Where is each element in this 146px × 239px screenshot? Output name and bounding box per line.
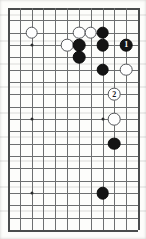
grid-line-vertical — [55, 8, 56, 230]
stone-black[interactable] — [73, 51, 86, 64]
stone-black[interactable] — [73, 39, 86, 52]
stone-white[interactable] — [84, 26, 97, 39]
scan-band — [0, 186, 146, 188]
scan-band — [0, 136, 146, 138]
grid-line-horizontal — [8, 131, 138, 132]
stone-black[interactable] — [96, 187, 109, 200]
grid-line-vertical — [8, 8, 10, 230]
scan-band — [0, 86, 146, 88]
scan-band — [0, 160, 146, 162]
scan-band — [0, 14, 146, 16]
stone-black[interactable] — [96, 39, 109, 52]
star-point — [30, 43, 33, 46]
stone-black-move-1[interactable]: 1 — [120, 39, 133, 52]
stone-black[interactable] — [108, 137, 121, 150]
grid-line-horizontal — [8, 205, 138, 206]
grid-line-horizontal — [8, 218, 138, 219]
stone-white[interactable] — [25, 26, 38, 39]
grid-line-horizontal — [8, 156, 138, 157]
star-point — [30, 191, 33, 194]
grid-line-horizontal — [8, 230, 138, 232]
stone-white[interactable] — [73, 26, 86, 39]
stone-move-number: 1 — [124, 41, 128, 49]
grid-line-vertical — [20, 8, 21, 230]
stone-white-move-2[interactable]: 2 — [108, 88, 121, 101]
grid-line-horizontal — [8, 107, 138, 108]
stone-black[interactable] — [96, 26, 109, 39]
stone-black[interactable] — [96, 63, 109, 76]
grid-line-horizontal — [8, 168, 138, 169]
grid-line-horizontal — [8, 193, 138, 194]
stone-white[interactable] — [61, 39, 74, 52]
grid-line-horizontal — [8, 8, 138, 10]
stone-white[interactable] — [120, 63, 133, 76]
grid-line-horizontal — [8, 181, 138, 182]
star-point — [30, 117, 33, 120]
go-board-diagram: 12 — [0, 0, 146, 239]
go-board-surface: 12 — [0, 0, 146, 239]
grid-line-vertical — [138, 8, 140, 230]
scan-band — [0, 112, 146, 114]
scan-band — [0, 210, 146, 212]
grid-line-vertical — [91, 8, 92, 230]
star-point — [101, 117, 104, 120]
grid-line-horizontal — [8, 82, 138, 83]
grid-line-horizontal — [8, 20, 138, 21]
stone-white[interactable] — [108, 113, 121, 126]
stone-move-number: 2 — [112, 90, 116, 98]
grid-line-vertical — [43, 8, 44, 230]
grid-line-horizontal — [8, 70, 138, 71]
